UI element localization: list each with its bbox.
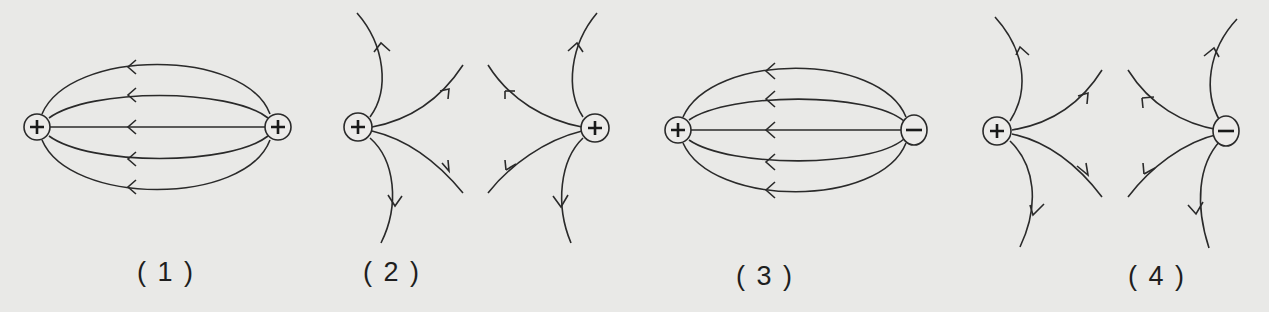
panel-1-field-lines	[24, 60, 291, 194]
panel-4-field-lines	[983, 17, 1239, 248]
arrow-icon	[374, 43, 583, 207]
panel-2-field-lines	[344, 13, 609, 243]
positive-charge-icon	[665, 117, 691, 143]
positive-charge-icon	[581, 114, 609, 142]
positive-charge-icon	[265, 114, 291, 140]
panel-2-label: ( 2 )	[363, 257, 421, 288]
negative-charge-icon	[1213, 116, 1239, 146]
negative-charge-icon	[901, 115, 927, 145]
panel-4-label: ( 4 )	[1128, 261, 1186, 292]
positive-charge-icon	[983, 117, 1011, 145]
panel-3-field-lines	[665, 63, 927, 198]
panel-3-label: ( 3 )	[736, 261, 794, 292]
positive-charge-icon	[24, 114, 50, 140]
positive-charge-icon	[344, 113, 372, 141]
panel-1-label: ( 1 )	[137, 257, 195, 288]
arrow-icon	[1016, 47, 1219, 215]
